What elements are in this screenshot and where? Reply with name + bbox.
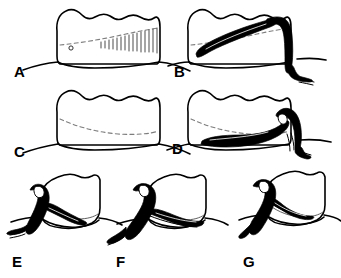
panel-label-f: F bbox=[116, 253, 125, 270]
curette-tip-ring-d bbox=[278, 114, 287, 124]
curette-tip-ring-g bbox=[259, 181, 269, 192]
curette-tip-ring-e bbox=[34, 186, 44, 197]
panel-label-a: A bbox=[14, 63, 25, 80]
panel-label-b: B bbox=[174, 63, 185, 80]
dental-figure-svg: A B C bbox=[0, 0, 341, 278]
panel-label-c: C bbox=[14, 143, 25, 160]
figure-root: A B C bbox=[0, 0, 341, 278]
curette-tip-ring-f bbox=[139, 185, 149, 196]
panel-label-d: D bbox=[172, 140, 183, 157]
panel-label-g: G bbox=[243, 253, 255, 270]
pocket-marker-dot-a bbox=[69, 46, 73, 50]
panel-label-e: E bbox=[12, 253, 22, 270]
